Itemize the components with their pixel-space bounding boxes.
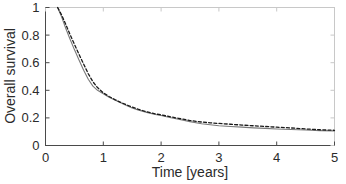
survival-chart-figure: 012345 00.20.40.60.81 Time [years] Overa… [0, 0, 346, 184]
y-axis-title: Overall survival [2, 28, 18, 124]
x-axis-title: Time [years] [152, 164, 229, 180]
y-tick-label: 0.2 [21, 110, 39, 125]
y-tick-label: 1 [32, 0, 39, 15]
x-tick-label: 2 [157, 150, 164, 165]
y-tick-label: 0 [32, 138, 39, 153]
x-tick-label: 1 [100, 150, 107, 165]
y-tick-label: 0.8 [21, 28, 39, 43]
y-tick-label: 0.4 [21, 83, 39, 98]
x-tick-label: 4 [273, 150, 280, 165]
x-tick-label: 0 [42, 150, 49, 165]
y-tick-label: 0.6 [21, 55, 39, 70]
chart-canvas: 012345 00.20.40.60.81 Time [years] Overa… [0, 0, 346, 184]
x-tick-label: 3 [215, 150, 222, 165]
figure-background [0, 0, 346, 184]
x-tick-label: 5 [331, 150, 338, 165]
